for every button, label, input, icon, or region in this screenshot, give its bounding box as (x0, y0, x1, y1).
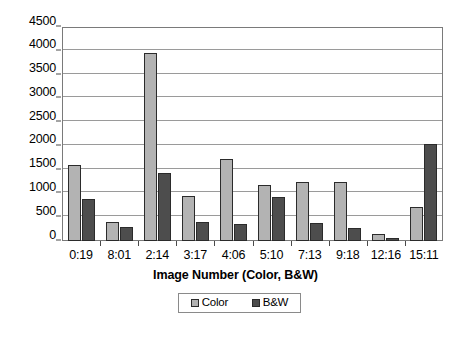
bar-color-9-18 (334, 182, 347, 241)
bar-chart: 450040003500300025002000150010005000 0:1… (0, 0, 471, 338)
x-axis-tick-label: 7:13 (298, 248, 322, 262)
y-axis-tick-mark (56, 240, 61, 241)
y-axis-tick-mark (56, 121, 61, 122)
legend-label-color: Color (202, 297, 228, 309)
y-axis-tick-label: 2000 (29, 133, 56, 146)
y-axis-tick-label: 2500 (29, 109, 56, 122)
bar-color-0-19 (68, 165, 81, 241)
x-axis-tick-mark (176, 241, 177, 246)
bar-b-w-7-13 (310, 223, 323, 241)
bar-b-w-4-06 (234, 224, 247, 241)
legend-entry-color: Color (191, 297, 228, 309)
bar-b-w-8-01 (120, 227, 133, 241)
x-axis-title: Image Number (Color, B&W) (0, 268, 471, 282)
bar-color-5-10 (258, 185, 271, 241)
y-axis: 450040003500300025002000150010005000 (0, 27, 56, 241)
y-axis-tick-label: 1500 (29, 157, 56, 170)
bar-b-w-5-10 (272, 197, 285, 241)
y-axis-tick-label: 1000 (29, 181, 56, 194)
bar-group (214, 27, 252, 241)
bar-color-4-06 (220, 159, 233, 241)
x-axis-tick-mark (329, 241, 330, 246)
bar-color-3-17 (182, 196, 195, 241)
x-axis-tick-label: 3:17 (184, 248, 208, 262)
x-axis-tick-label: 5:10 (260, 248, 284, 262)
x-axis-tick-label: 8:01 (107, 248, 131, 262)
legend-label-bw: B&W (263, 297, 289, 309)
bar-group (367, 27, 405, 241)
legend-swatch-bw-icon (252, 299, 260, 307)
x-axis-tick-mark (138, 241, 139, 246)
y-axis-tick-label: 3000 (29, 86, 56, 99)
bar-group (291, 27, 329, 241)
y-axis-tick-mark (56, 144, 61, 145)
bar-b-w-9-18 (348, 228, 361, 241)
chart-legend: Color B&W (178, 293, 301, 313)
y-axis-tick-mark (56, 168, 61, 169)
y-axis-tick-label: 4500 (29, 14, 56, 27)
y-axis-tick-mark (56, 97, 61, 98)
bar-b-w-0-19 (82, 199, 95, 241)
bar-group (176, 27, 214, 241)
bar-color-12-16 (372, 234, 385, 241)
y-axis-tick-mark (56, 73, 61, 74)
bar-group (253, 27, 291, 241)
bar-b-w-3-17 (196, 222, 209, 241)
x-axis-tick-label: 4:06 (222, 248, 246, 262)
y-axis-tick-label: 4000 (29, 38, 56, 51)
y-axis-tick-mark (56, 216, 61, 217)
x-axis-labels: 0:198:012:143:174:065:107:139:1812:1615:… (62, 248, 443, 264)
x-axis-tick-mark (405, 241, 406, 246)
bar-group (100, 27, 138, 241)
x-axis-tick-mark (291, 241, 292, 246)
x-axis-tick-label: 0:19 (69, 248, 93, 262)
x-axis-tick-label: 9:18 (336, 248, 360, 262)
y-axis-tick-mark (56, 26, 61, 27)
x-axis-tick-mark (367, 241, 368, 246)
x-axis-tick-mark (214, 241, 215, 246)
bar-group (138, 27, 176, 241)
x-axis-tick-label: 12:16 (371, 248, 401, 262)
bar-b-w-15-11 (424, 144, 437, 241)
bar-color-15-11 (410, 207, 423, 241)
y-axis-tick-mark (56, 192, 61, 193)
y-axis-tick-label: 3500 (29, 62, 56, 75)
bar-color-7-13 (296, 182, 309, 241)
bars-layer (62, 27, 443, 241)
x-axis-tick-mark (100, 241, 101, 246)
bar-color-8-01 (106, 222, 119, 241)
bar-group (62, 27, 100, 241)
x-axis-tick-label: 15:11 (409, 248, 438, 262)
y-axis-tick-label: 500 (36, 204, 56, 217)
bar-color-2-14 (144, 53, 157, 241)
y-axis-tick-mark (56, 49, 61, 50)
x-axis-tick-label: 2:14 (145, 248, 169, 262)
y-axis-tick-label: 0 (49, 228, 56, 241)
x-axis-ticks (62, 241, 443, 246)
x-axis-tick-mark (253, 241, 254, 246)
legend-entry-bw: B&W (252, 297, 289, 309)
bar-group (329, 27, 367, 241)
bar-group (405, 27, 443, 241)
bar-b-w-2-14 (158, 173, 171, 241)
legend-swatch-color-icon (191, 299, 199, 307)
